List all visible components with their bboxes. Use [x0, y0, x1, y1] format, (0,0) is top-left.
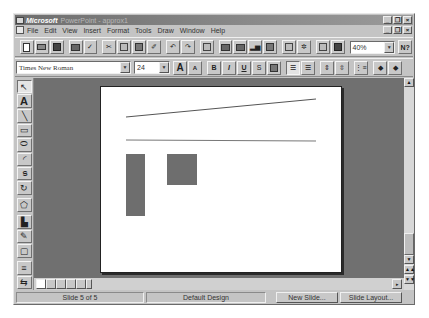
font-size-select[interactable]: 24 ▼: [134, 61, 170, 74]
help-button[interactable]: N?: [398, 40, 412, 54]
restore-button[interactable]: ❐: [393, 16, 402, 24]
horizontal-line-shape[interactable]: [126, 140, 316, 141]
horizontal-scroll-left-button[interactable]: [86, 279, 92, 289]
zoom-select[interactable]: 40% ▼: [350, 41, 396, 54]
paste-button[interactable]: [132, 40, 146, 54]
draw-tool-arc[interactable]: ◜: [17, 153, 32, 166]
scroll-up-button[interactable]: ▲: [404, 78, 414, 87]
black-and-white-view-button[interactable]: [331, 40, 345, 54]
chevron-down-icon[interactable]: ▼: [120, 62, 130, 73]
previous-slide-button[interactable]: ▲▲: [404, 265, 414, 274]
format-painter-button[interactable]: ✐: [147, 40, 161, 54]
menu-view[interactable]: View: [62, 27, 77, 34]
next-slide-button[interactable]: ▼▼: [404, 275, 414, 284]
draw-tool-freeform[interactable]: ട: [17, 167, 32, 180]
slanted-line-shape[interactable]: [126, 99, 316, 117]
square-shape[interactable]: [167, 154, 197, 185]
menu-file[interactable]: File: [27, 27, 38, 34]
menu-tools[interactable]: Tools: [135, 27, 151, 34]
scroll-thumb[interactable]: [404, 233, 414, 255]
draw-tool-line[interactable]: ╲: [17, 109, 32, 122]
draw-tool-line-color[interactable]: ✎: [17, 230, 32, 243]
demote-button[interactable]: ◆: [388, 61, 402, 75]
center-button[interactable]: ☰: [301, 61, 315, 75]
underline-button[interactable]: U: [237, 61, 251, 75]
dash-style-icon: ⇆: [20, 277, 28, 287]
doc-minimize-button[interactable]: _: [383, 26, 392, 34]
line-style-icon: ≡: [21, 263, 26, 273]
title-text: PowerPoint - approx1: [61, 17, 128, 24]
slide-view-button[interactable]: [36, 279, 46, 289]
draw-tool-shadow[interactable]: ▢: [17, 244, 32, 257]
slide-sorter-view-button[interactable]: [56, 279, 66, 289]
menu-format[interactable]: Format: [107, 27, 129, 34]
insert-excel-worksheet-button[interactable]: [233, 40, 247, 54]
title-bar[interactable]: Microsoft PowerPoint - approx1 _ ❐ ×: [15, 15, 413, 25]
slide-layout-button[interactable]: Slide Layout...: [340, 292, 402, 303]
cut-button[interactable]: ✂: [102, 40, 116, 54]
draw-tool-text[interactable]: A: [17, 94, 32, 108]
undo-button[interactable]: ↶: [166, 40, 180, 54]
insert-word-table-button[interactable]: [219, 40, 233, 54]
decrease-paragraph-spacing-button[interactable]: ⇳: [335, 61, 349, 75]
increase-font-size-button[interactable]: A: [173, 61, 187, 75]
draw-tool-rectangle[interactable]: ▭: [17, 124, 32, 137]
italic-button[interactable]: I: [222, 61, 236, 75]
insert-hyperlink-button[interactable]: [200, 40, 214, 54]
notes-page-view-button[interactable]: [66, 279, 76, 289]
outline-view-button[interactable]: [46, 279, 56, 289]
slide-show-button[interactable]: [76, 279, 86, 289]
horizontal-scroll-right-button[interactable]: ▸: [392, 279, 402, 289]
vertical-scrollbar[interactable]: ▲ ▼ ▲▲ ▼▼: [404, 78, 414, 290]
promote-button[interactable]: ◆: [373, 61, 387, 75]
menu-edit[interactable]: Edit: [44, 27, 56, 34]
draw-tool-free-rotate[interactable]: ↻: [17, 181, 32, 194]
apply-design-button[interactable]: [282, 40, 296, 54]
chevron-down-icon[interactable]: ▼: [159, 62, 169, 73]
menu-help[interactable]: Help: [211, 27, 225, 34]
slide-canvas[interactable]: [100, 86, 342, 273]
redo-button[interactable]: ↷: [181, 40, 195, 54]
doc-restore-button[interactable]: ❐: [393, 26, 402, 34]
decrease-paragraph-spacing-icon: ⇳: [339, 64, 345, 72]
insert-chart-button[interactable]: ▂▅: [248, 40, 262, 54]
align-left-button[interactable]: ☰: [286, 61, 300, 75]
chevron-down-icon[interactable]: ▼: [384, 42, 394, 53]
new-slide-status-button[interactable]: New Slide...: [276, 292, 338, 303]
draw-tool-select[interactable]: ↖: [17, 80, 32, 93]
underline-icon: U: [241, 64, 246, 71]
demote-icon: ◆: [393, 64, 398, 72]
doc-close-button[interactable]: ×: [403, 26, 412, 34]
document-icon[interactable]: [16, 26, 24, 34]
text-shadow-button[interactable]: S: [252, 61, 266, 75]
draw-tool-dash-style[interactable]: ⇆: [17, 276, 32, 289]
decrease-font-size-button[interactable]: A: [188, 61, 202, 75]
minimize-button[interactable]: _: [383, 16, 392, 24]
menu-insert[interactable]: Insert: [83, 27, 101, 34]
scroll-down-button[interactable]: ▼: [404, 255, 414, 264]
print-button[interactable]: [69, 40, 83, 54]
insert-clip-art-button[interactable]: [263, 40, 277, 54]
draw-tool-ellipse[interactable]: ⬭: [17, 138, 32, 151]
menu-window[interactable]: Window: [180, 27, 205, 34]
animation-effects-button[interactable]: [316, 40, 330, 54]
save-button[interactable]: [50, 40, 64, 54]
black-and-white-view-icon: [334, 43, 342, 51]
tall-rectangle-shape[interactable]: [126, 154, 145, 216]
powerpoint-app-icon[interactable]: [16, 17, 24, 24]
draw-tool-line-style[interactable]: ≡: [17, 261, 32, 274]
bullets-button[interactable]: ⋮≡: [354, 61, 368, 75]
new-button[interactable]: [20, 40, 34, 54]
increase-paragraph-spacing-button[interactable]: ⇕: [320, 61, 334, 75]
draw-tool-fill-color[interactable]: ▙: [17, 215, 32, 228]
new-slide-button[interactable]: ✲: [297, 40, 311, 54]
open-button[interactable]: [35, 40, 49, 54]
draw-tool-autoshapes[interactable]: ⬠: [17, 198, 32, 211]
bold-button[interactable]: B: [207, 61, 221, 75]
menu-draw[interactable]: Draw: [157, 27, 173, 34]
text-color-button[interactable]: [267, 61, 281, 75]
close-button[interactable]: ×: [403, 16, 412, 24]
copy-button[interactable]: [117, 40, 131, 54]
spelling-button[interactable]: ✓: [84, 40, 98, 54]
font-name-select[interactable]: Times New Roman ▼: [16, 61, 131, 74]
